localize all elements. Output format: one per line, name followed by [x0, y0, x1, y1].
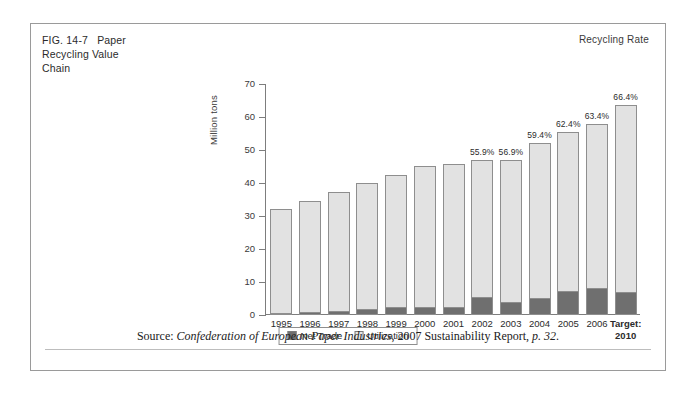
bar-segment-utilization[interactable] [615, 105, 637, 315]
bar-segment-utilization[interactable] [385, 175, 407, 315]
bar-segment-utilization[interactable] [586, 124, 608, 315]
bar-segment-utilization[interactable] [299, 201, 321, 315]
bar-segment-net-trade[interactable] [357, 309, 377, 314]
bar-group[interactable]: 63.4% [586, 84, 608, 315]
bar-group[interactable] [414, 84, 436, 315]
bar-segment-utilization[interactable] [500, 160, 522, 315]
source-prefix: Source: [137, 329, 177, 343]
bar-segment-net-trade[interactable] [530, 298, 550, 315]
y-axis-tick-label: 0 [231, 309, 255, 320]
recycling-rate-annotation: Recycling Rate [579, 34, 649, 45]
bar-segment-net-trade[interactable] [587, 288, 607, 314]
bar-group[interactable] [356, 84, 378, 315]
bar-segment-net-trade[interactable] [415, 307, 435, 314]
y-axis-tick-label: 20 [231, 243, 255, 254]
bar-segment-net-trade[interactable] [558, 291, 578, 314]
bar-segment-net-trade[interactable] [472, 297, 492, 314]
bar-segment-utilization[interactable] [529, 143, 551, 315]
y-axis-tick-label: 40 [231, 177, 255, 188]
y-axis-line [265, 84, 266, 315]
bar-segment-net-trade[interactable] [616, 292, 636, 314]
bar-value-label: 62.4% [556, 119, 581, 129]
y-axis-tick [259, 315, 266, 316]
bar-group[interactable] [443, 84, 465, 315]
bar-series-container: 55.9%56.9%59.4%62.4%63.4%66.4% [267, 84, 640, 315]
figure-title: FIG. 14-7Paper Recycling Value Chain [42, 33, 177, 75]
figure-title-line-3: Chain [42, 62, 70, 74]
y-axis-tick [259, 216, 266, 217]
bar-segment-utilization[interactable] [443, 164, 465, 315]
y-axis-tick-label: 30 [231, 210, 255, 221]
bar-group[interactable] [385, 84, 407, 315]
bar-value-label: 66.4% [613, 92, 638, 102]
bar-value-label: 56.9% [499, 147, 524, 157]
source-middle: , 2007 Sustainability Report, [391, 329, 532, 343]
bar-group[interactable]: 59.4% [529, 84, 551, 315]
bar-segment-utilization[interactable] [414, 166, 436, 315]
bar-segment-net-trade[interactable] [386, 307, 406, 314]
bar-group[interactable] [270, 84, 292, 315]
bar-segment-utilization[interactable] [270, 209, 292, 315]
bar-segment-net-trade[interactable] [271, 313, 291, 314]
y-axis-tick-label: 10 [231, 276, 255, 287]
bar-group[interactable] [299, 84, 321, 315]
bar-group[interactable]: 55.9% [471, 84, 493, 315]
y-axis-tick-label: 70 [231, 78, 255, 89]
source-suffix: . [556, 329, 559, 343]
figure-frame: FIG. 14-7Paper Recycling Value Chain Rec… [30, 23, 666, 371]
bar-group[interactable]: 62.4% [557, 84, 579, 315]
source-publisher: Confederation of European Paper Industri… [177, 329, 392, 343]
y-axis-tick [259, 84, 266, 85]
bar-segment-utilization[interactable] [328, 192, 350, 315]
bar-segment-utilization[interactable] [557, 132, 579, 315]
bar-segment-net-trade[interactable] [501, 302, 521, 314]
bar-value-label: 63.4% [585, 111, 610, 121]
source-caption: Source: Confederation of European Paper … [31, 329, 665, 344]
source-page: p. 32 [532, 329, 556, 343]
y-axis-tick [259, 183, 266, 184]
y-axis-tick [259, 282, 266, 283]
y-axis-tick [259, 117, 266, 118]
bar-group[interactable] [328, 84, 350, 315]
figure-title-line-2: Recycling Value [42, 48, 119, 60]
bar-segment-utilization[interactable] [471, 160, 493, 315]
y-axis-tick-label: 60 [231, 111, 255, 122]
y-axis-tick [259, 150, 266, 151]
bar-group[interactable]: 56.9% [500, 84, 522, 315]
bar-segment-net-trade[interactable] [329, 311, 349, 314]
bar-segment-net-trade[interactable] [300, 312, 320, 314]
chart-plot-area: Million tons 010203040506070 55.9%56.9%5… [191, 50, 651, 325]
figure-title-line-1: Paper [97, 34, 126, 46]
bar-group[interactable]: 66.4% [615, 84, 637, 315]
bar-value-label: 59.4% [527, 130, 552, 140]
y-axis-tick [259, 249, 266, 250]
source-divider [45, 349, 651, 350]
bar-segment-net-trade[interactable] [444, 307, 464, 314]
y-axis-tick-label: 50 [231, 144, 255, 155]
bar-segment-utilization[interactable] [356, 183, 378, 315]
y-axis-title: Million tons [208, 95, 219, 145]
bar-value-label: 55.9% [470, 147, 495, 157]
figure-number: FIG. 14-7 [42, 34, 88, 46]
